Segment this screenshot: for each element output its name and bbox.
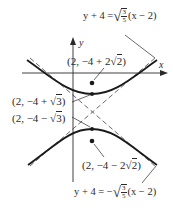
fraction: 3 5 xyxy=(121,8,127,24)
label-text: (2, −4 − xyxy=(12,112,50,124)
label-text: ) xyxy=(137,159,141,171)
upper-vertex-label: (2, −4 + √3) xyxy=(12,96,65,107)
lower-vertex-dot xyxy=(90,127,94,131)
eq-lhs: y + 4 = − xyxy=(74,187,113,198)
y-axis-label: y xyxy=(79,38,83,48)
denominator: 5 xyxy=(122,17,126,24)
sqrt-icon: √ xyxy=(113,185,121,200)
upper-focus-label: (2, −4 + 2√2) xyxy=(67,56,126,67)
hyperbola-diagram xyxy=(0,0,173,214)
upper-focus-dot xyxy=(90,81,95,86)
lower-focus-dot xyxy=(90,139,95,144)
sqrt-icon: √ xyxy=(113,9,121,24)
x-axis-arrow-icon xyxy=(160,70,168,76)
sqrt-icon: √ xyxy=(111,55,117,67)
label-text: (2, −4 − 2 xyxy=(82,159,126,171)
label-text: ) xyxy=(62,112,66,124)
eq-lhs: y + 4 = xyxy=(83,11,113,22)
leader-upper-focus xyxy=(94,68,104,80)
lower-focus-label: (2, −4 − 2√2) xyxy=(82,160,141,171)
x-axis-label: x xyxy=(159,60,163,70)
label-text: ) xyxy=(122,55,126,67)
leader-lower-eq xyxy=(142,166,156,183)
label-text: (2, −4 + 2 xyxy=(67,55,111,67)
sqrt-icon: √ xyxy=(126,159,132,171)
upper-asymptote-equation: y + 4 = √ 3 5 (x − 2) xyxy=(83,8,157,24)
eq-rhs: (x − 2) xyxy=(128,187,157,198)
denominator: 5 xyxy=(122,193,126,200)
upper-vertex-dot xyxy=(90,92,94,96)
leader-lower-vertex xyxy=(72,117,90,127)
label-text: ) xyxy=(62,95,66,107)
label-text: (2, −4 + xyxy=(12,95,50,107)
lower-asymptote-equation: y + 4 = − √ 3 5 (x − 2) xyxy=(74,184,156,200)
y-axis-arrow-icon xyxy=(70,37,76,45)
leader-upper-eq xyxy=(125,35,155,58)
leader-upper-vertex xyxy=(72,95,90,102)
eq-rhs: (x − 2) xyxy=(128,11,157,22)
fraction: 3 5 xyxy=(121,184,127,200)
lower-vertex-label: (2, −4 − √3) xyxy=(12,113,65,124)
leader-lower-focus xyxy=(94,144,104,157)
